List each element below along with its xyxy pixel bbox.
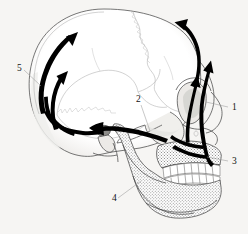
label-4: 4 [112, 193, 117, 203]
label-2: 2 [136, 94, 141, 104]
skull-diagram-figure: 1 2 3 4 5 [0, 0, 248, 234]
skull-diagram-svg: 1 2 3 4 5 [0, 0, 248, 234]
label-1: 1 [232, 102, 237, 112]
label-3: 3 [232, 156, 237, 166]
label-5: 5 [17, 63, 22, 73]
